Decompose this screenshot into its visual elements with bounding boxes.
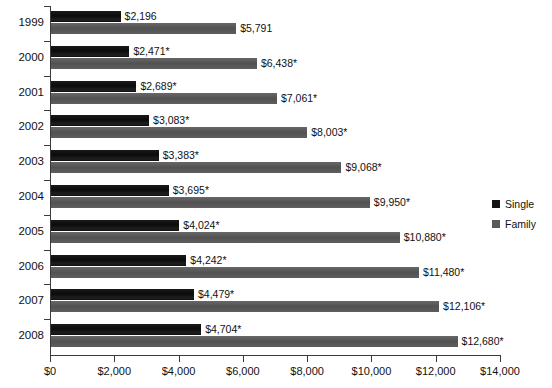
y-tick-2008 (44, 319, 51, 320)
chart-legend: SingleFamily (492, 196, 550, 236)
plot-area: $2,196$5,791$2,471*$6,438*$2,689*$7,061*… (50, 6, 500, 354)
bar-value-label-single-2002: $3,083* (153, 115, 189, 126)
x-tick-12000 (436, 356, 437, 362)
y-tick-2006 (44, 250, 51, 251)
bar-single-2006 (50, 255, 186, 266)
x-tick-label-8000: $8,000 (290, 365, 324, 377)
bar-group-2004: $3,695*$9,950* (50, 180, 500, 215)
y-tick-2005 (44, 215, 51, 216)
legend-item-family: Family (492, 216, 550, 231)
bar-chart: $2,196$5,791$2,471*$6,438*$2,689*$7,061*… (0, 0, 552, 388)
x-axis-line (50, 355, 501, 356)
bar-value-label-family-2004: $9,950* (374, 197, 410, 208)
bar-group-2001: $2,689*$7,061* (50, 76, 500, 111)
year-label-1999: 1999 (0, 16, 44, 28)
bar-value-label-single-2006: $4,242* (190, 255, 226, 266)
bar-value-label-single-2008: $4,704* (205, 324, 241, 335)
bar-single-2000 (50, 46, 129, 57)
legend-label-single: Single (505, 198, 534, 210)
year-label-2007: 2007 (0, 294, 44, 306)
bar-family-2001 (50, 93, 277, 104)
bar-family-2005 (50, 232, 400, 243)
bar-value-label-single-2005: $4,024* (183, 220, 219, 231)
year-label-2001: 2001 (0, 86, 44, 98)
year-label-2004: 2004 (0, 190, 44, 202)
bar-single-2007 (50, 289, 194, 300)
bar-family-2007 (50, 301, 439, 312)
y-tick-2007 (44, 284, 51, 285)
bar-single-2002 (50, 115, 149, 126)
bar-single-2008 (50, 324, 201, 335)
bar-value-label-family-2001: $7,061* (281, 93, 317, 104)
bar-single-2005 (50, 220, 179, 231)
bar-single-2003 (50, 150, 159, 161)
bar-family-2000 (50, 58, 257, 69)
x-tick-4000 (179, 356, 180, 362)
bar-value-label-single-2004: $3,695* (173, 185, 209, 196)
year-label-2003: 2003 (0, 155, 44, 167)
bar-group-2002: $3,083*$8,003* (50, 110, 500, 145)
x-tick-8000 (307, 356, 308, 362)
bar-value-label-single-2003: $3,383* (163, 150, 199, 161)
year-label-2006: 2006 (0, 260, 44, 272)
bar-family-2008 (50, 336, 458, 347)
bar-group-2007: $4,479*$12,106* (50, 284, 500, 319)
bar-value-label-single-2000: $2,471* (133, 46, 169, 57)
x-tick-label-0: $0 (44, 365, 56, 377)
bar-group-2003: $3,383*$9,068* (50, 145, 500, 180)
y-tick-2004 (44, 180, 51, 181)
y-tick-1999 (44, 6, 51, 7)
legend-item-single: Single (492, 196, 550, 211)
bar-value-label-single-2001: $2,689* (140, 81, 176, 92)
year-label-2002: 2002 (0, 120, 44, 132)
bar-single-1999 (50, 11, 121, 22)
x-tick-label-2000: $2,000 (97, 365, 131, 377)
x-tick-2000 (114, 356, 115, 362)
bar-family-1999 (50, 23, 236, 34)
bar-single-2004 (50, 185, 169, 196)
x-tick-label-14000: $14,000 (480, 365, 520, 377)
y-tick-2000 (44, 41, 51, 42)
y-tick-2002 (44, 110, 51, 111)
x-tick-label-6000: $6,000 (226, 365, 260, 377)
bar-group-2005: $4,024*$10,880* (50, 215, 500, 250)
bar-family-2004 (50, 197, 370, 208)
bar-value-label-family-2008: $12,680* (462, 336, 504, 347)
bar-value-label-family-2000: $6,438* (261, 58, 297, 69)
bar-family-2006 (50, 267, 419, 278)
x-tick-14000 (500, 356, 501, 362)
x-tick-0 (50, 356, 51, 362)
bar-value-label-family-2007: $12,106* (443, 301, 485, 312)
bar-value-label-family-2005: $10,880* (404, 232, 446, 243)
year-label-2000: 2000 (0, 51, 44, 63)
bar-value-label-single-1999: $2,196 (125, 11, 157, 22)
legend-swatch-family-icon (492, 220, 500, 228)
legend-label-family: Family (505, 218, 536, 230)
legend-swatch-single-icon (492, 200, 500, 208)
bar-value-label-family-1999: $5,791 (240, 23, 272, 34)
year-label-2008: 2008 (0, 329, 44, 341)
x-tick-label-4000: $4,000 (162, 365, 196, 377)
bar-family-2002 (50, 127, 307, 138)
x-tick-10000 (371, 356, 372, 362)
bar-group-2000: $2,471*$6,438* (50, 41, 500, 76)
x-tick-6000 (243, 356, 244, 362)
bar-value-label-family-2002: $8,003* (311, 127, 347, 138)
year-label-2005: 2005 (0, 225, 44, 237)
y-tick-2003 (44, 145, 51, 146)
bar-value-label-family-2006: $11,480* (423, 267, 464, 278)
bar-group-2008: $4,704*$12,680* (50, 319, 500, 354)
bar-single-2001 (50, 81, 136, 92)
x-tick-label-10000: $10,000 (352, 365, 392, 377)
bar-family-2003 (50, 162, 341, 173)
bar-group-1999: $2,196$5,791 (50, 6, 500, 41)
bar-value-label-single-2007: $4,479* (198, 289, 234, 300)
y-tick-2001 (44, 76, 51, 77)
x-tick-label-12000: $12,000 (416, 365, 456, 377)
bar-group-2006: $4,242*$11,480* (50, 250, 500, 285)
bar-value-label-family-2003: $9,068* (345, 162, 381, 173)
